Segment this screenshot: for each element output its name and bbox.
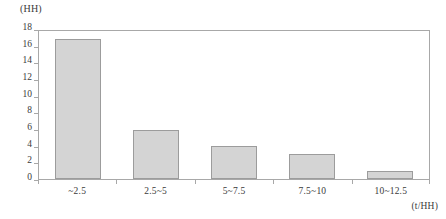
x-axis-category-label: 2.5~5: [116, 186, 194, 196]
y-axis-unit-label: (HH): [20, 3, 42, 14]
y-axis-tick-label: 12: [23, 73, 33, 83]
y-axis-tick-label: 18: [23, 23, 33, 33]
x-axis-tick-mark: [273, 180, 274, 184]
bar-slot: [39, 31, 117, 179]
bar-slot: [273, 31, 351, 179]
y-axis-tick-label: 4: [27, 140, 32, 150]
x-axis-labels: ~2.52.5~55~7.57.5~1010~12.5: [38, 186, 430, 196]
y-axis-tick-label: 0: [27, 173, 32, 183]
bar: [55, 39, 101, 179]
y-axis-tick-label: 14: [23, 56, 33, 66]
bar: [133, 130, 179, 179]
x-axis-category-label: 5~7.5: [195, 186, 273, 196]
y-axis-tick-label: 2: [27, 156, 32, 166]
y-axis-tick-label: 16: [23, 40, 33, 50]
bar: [367, 171, 413, 179]
y-axis-tick-label: 6: [27, 123, 32, 133]
bar-slot: [351, 31, 429, 179]
bar-slot: [195, 31, 273, 179]
bar: [211, 146, 257, 179]
x-axis-tick-mark: [195, 180, 196, 184]
plot-area: [38, 30, 430, 180]
x-axis-tick-mark: [352, 180, 353, 184]
x-axis-category-label: 10~12.5: [352, 186, 430, 196]
bar-chart-figure: (HH) 181614121086420 ~2.52.5~55~7.57.5~1…: [0, 0, 446, 219]
bar-slot: [117, 31, 195, 179]
y-axis-tick-label: 8: [27, 106, 32, 116]
y-axis: 181614121086420: [0, 30, 38, 180]
x-axis-unit-label: (t/HH): [411, 201, 438, 211]
bars-layer: [39, 31, 429, 179]
y-axis-tick-label: 10: [23, 90, 33, 100]
x-axis-tick-mark: [429, 180, 430, 184]
bar: [289, 154, 335, 179]
x-axis-tick-mark: [38, 180, 39, 184]
x-axis-tick-mark: [116, 180, 117, 184]
x-axis-tick-marks: [38, 180, 430, 184]
x-axis-category-label: 7.5~10: [273, 186, 351, 196]
x-axis-category-label: ~2.5: [38, 186, 116, 196]
